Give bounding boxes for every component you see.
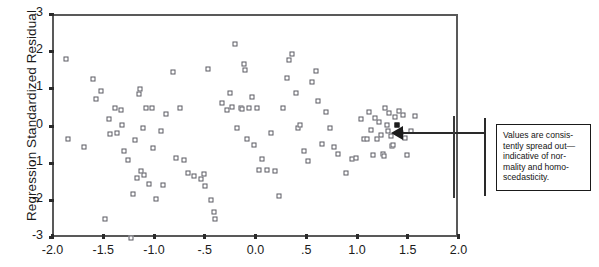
data-point: [170, 70, 175, 75]
data-point: [376, 119, 381, 124]
data-point: [122, 148, 127, 153]
y-tick-label: -1: [32, 154, 43, 168]
data-point: [319, 141, 324, 146]
data-point: [120, 122, 125, 127]
data-point: [301, 148, 306, 153]
data-point: [160, 183, 165, 188]
data-point: [368, 127, 373, 132]
y-tick-label: 2: [36, 42, 43, 56]
data-point: [133, 138, 138, 143]
data-point: [281, 106, 286, 111]
data-point: [393, 115, 398, 120]
x-tick-label: 1.5: [399, 243, 416, 257]
data-point: [244, 136, 249, 141]
data-point: [265, 167, 270, 172]
callout-line-3: indicative of nor-: [503, 151, 585, 162]
callout-arrow-icon: [391, 126, 403, 140]
data-point: [185, 170, 190, 175]
data-point: [131, 192, 136, 197]
y-tick: 1: [49, 87, 54, 90]
data-point: [177, 106, 182, 111]
callout-box: Values are consis- tently spread out— in…: [496, 124, 591, 191]
data-point: [107, 132, 112, 137]
data-point: [269, 131, 274, 136]
data-point: [358, 117, 363, 122]
callout-vertical-rule: [453, 116, 455, 198]
chart-root: Regression Standardized Residual 3210-1-…: [0, 0, 599, 267]
data-point: [227, 91, 232, 96]
data-point: [141, 125, 146, 130]
data-point: [391, 143, 396, 148]
data-point: [305, 158, 310, 163]
data-point: [203, 184, 208, 189]
data-point: [313, 68, 318, 73]
y-tick-label: -2: [32, 191, 43, 205]
data-point: [150, 106, 155, 111]
data-point: [324, 109, 329, 114]
data-point: [246, 106, 251, 111]
data-point: [220, 100, 225, 105]
callout-line-4: mality and homo-: [503, 162, 585, 173]
data-point: [229, 104, 234, 109]
x-tick: -.5: [203, 234, 206, 239]
data-point: [181, 158, 186, 163]
x-tick: 0.0: [254, 234, 257, 239]
data-point: [64, 57, 69, 62]
data-point: [242, 67, 247, 72]
x-tick-label: -2.0: [42, 243, 64, 257]
data-point: [241, 61, 246, 66]
data-point: [118, 108, 123, 113]
data-point: [147, 181, 152, 186]
data-point: [112, 106, 117, 111]
y-tick: 3: [49, 13, 54, 16]
data-point: [209, 197, 214, 202]
data-point: [98, 89, 103, 94]
x-tick-label: 1.0: [348, 243, 365, 257]
callout-line-2: tently spread out—: [503, 141, 585, 152]
x-tick: 1.0: [356, 234, 359, 239]
data-point: [137, 92, 142, 97]
data-point: [234, 126, 239, 131]
x-tick-label: -1.0: [143, 243, 165, 257]
data-point: [129, 235, 134, 240]
data-point: [202, 171, 207, 176]
data-point: [273, 168, 278, 173]
callout-stem-rule: [484, 118, 486, 196]
data-point: [192, 173, 197, 178]
data-point: [370, 153, 375, 158]
data-point: [255, 106, 260, 111]
data-point: [381, 153, 386, 158]
data-point: [315, 98, 320, 103]
data-point: [232, 42, 237, 47]
y-tick-label: 3: [36, 5, 43, 19]
data-point: [336, 151, 341, 156]
x-tick-label: .5: [301, 243, 311, 257]
data-point: [285, 75, 290, 80]
callout-line-1: Values are consis-: [503, 130, 585, 141]
y-tick-label: 1: [36, 79, 43, 93]
data-point: [239, 106, 244, 111]
y-tick: -2: [49, 199, 54, 202]
data-point: [251, 143, 256, 148]
data-point: [66, 137, 71, 142]
data-point: [102, 216, 107, 221]
x-tick-label: -.5: [197, 243, 212, 257]
x-tick: 2.0: [457, 234, 460, 239]
x-tick: .5: [305, 234, 308, 239]
y-tick-label: 0: [36, 117, 43, 131]
data-point: [384, 122, 389, 127]
y-tick: 0: [49, 125, 54, 128]
data-point: [90, 77, 95, 82]
data-point: [93, 96, 98, 101]
x-tick: -2.0: [51, 234, 54, 239]
data-point: [249, 95, 254, 100]
data-point: [297, 122, 302, 127]
data-point: [405, 153, 410, 158]
callout-leader-line: [398, 132, 486, 134]
data-point: [366, 109, 371, 114]
data-point: [163, 111, 168, 116]
callout-line-5: scedasticity.: [503, 172, 585, 183]
x-tick-label: 0.0: [247, 243, 264, 257]
y-tick-label: -3: [32, 228, 43, 242]
x-tick-label: -1.5: [92, 243, 114, 257]
